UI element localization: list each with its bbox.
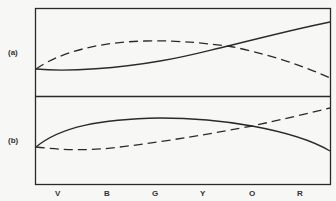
panel-b-label: (b): [8, 136, 19, 145]
x-label-y: Y: [200, 189, 206, 198]
panel-b-dashed-curve: [36, 108, 330, 150]
panel-a-dashed-curve: [36, 41, 330, 78]
x-axis-labels: V B G Y O R: [55, 189, 303, 198]
x-label-g: G: [152, 189, 158, 198]
panel-b-solid-curve: [36, 118, 330, 151]
spectral-diagram: (a) (b) V B G Y O R: [0, 0, 336, 201]
x-label-v: V: [55, 189, 61, 198]
panel-b: [36, 108, 330, 151]
panel-a-label: (a): [8, 48, 18, 57]
x-label-b: B: [104, 189, 110, 198]
panel-a: [36, 22, 330, 78]
panel-a-solid-curve: [36, 22, 330, 70]
x-label-r: R: [297, 189, 303, 198]
x-label-o: O: [249, 189, 255, 198]
